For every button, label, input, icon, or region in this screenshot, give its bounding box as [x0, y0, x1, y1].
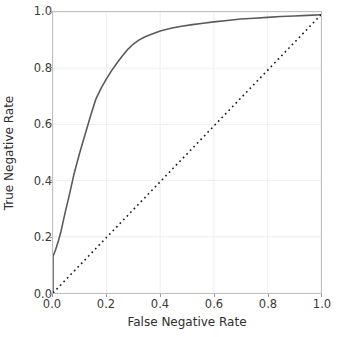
- x-tick-mark-1: [106, 294, 107, 297]
- roc-chart-figure: True Negative Rate 0.0 0.2 0.4 0.6 0.8 1…: [0, 0, 337, 337]
- x-tick-mark-4: [268, 294, 269, 297]
- x-tick-label-0: 0.0: [43, 297, 61, 311]
- x-tick-label-1: 0.2: [97, 297, 115, 311]
- x-tick-mark-5: [321, 294, 322, 297]
- x-tick-mark-3: [214, 294, 215, 297]
- gridlines: [53, 12, 321, 293]
- x-tick-label-5: 1.0: [313, 297, 331, 311]
- x-tick-label-3: 0.6: [205, 297, 223, 311]
- x-tick-mark-2: [160, 294, 161, 297]
- series-layer: [53, 15, 321, 293]
- y-axis-label: True Negative Rate: [0, 11, 18, 294]
- plot-area: [52, 11, 322, 294]
- y-axis-label-text: True Negative Rate: [2, 95, 16, 210]
- x-tick-label-4: 0.8: [259, 297, 277, 311]
- x-tick-label-2: 0.4: [151, 297, 169, 311]
- x-axis-label: False Negative Rate: [52, 315, 322, 329]
- x-tick-mark-0: [52, 294, 53, 297]
- series-chance-diagonal: [53, 15, 321, 293]
- plot-svg: [53, 12, 321, 293]
